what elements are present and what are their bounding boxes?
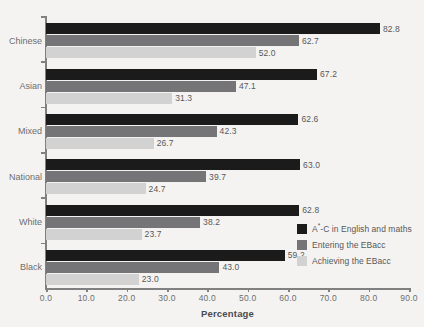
bar-row: 39.7 [46, 171, 409, 182]
bar-value-label: 39.7 [206, 172, 226, 182]
bar-row: 62.6 [46, 114, 409, 125]
bar[interactable] [46, 183, 146, 194]
x-axis-tick [369, 288, 371, 292]
bar-row: 42.3 [46, 126, 409, 137]
x-axis-tick-label: 40.0 [199, 293, 216, 303]
bar-group: 82.862.752.0 [46, 23, 409, 59]
bar-value-label: 23.0 [139, 274, 159, 284]
bar-chart: ChineseAsianMixedNationalWhiteBlack 82.8… [0, 0, 424, 327]
bar-row: 31.3 [46, 93, 409, 104]
x-axis-tick-label: 90.0 [400, 293, 417, 303]
bar[interactable] [46, 93, 172, 104]
bar[interactable] [46, 250, 285, 261]
bar[interactable] [46, 229, 142, 240]
bar-value-label: 31.3 [172, 93, 192, 103]
bar-group: 63.039.724.7 [46, 159, 409, 195]
bar[interactable] [46, 126, 217, 137]
category-label: Mixed [0, 126, 42, 136]
bar-value-label: 47.1 [236, 81, 256, 91]
bar[interactable] [46, 23, 380, 34]
x-axis-tick [248, 288, 250, 292]
x-axis-tick-label: 80.0 [360, 293, 377, 303]
category-label: Chinese [0, 36, 42, 46]
bar-value-label: 62.8 [299, 205, 319, 215]
bar-row: 67.2 [46, 69, 409, 80]
category-axis-labels: ChineseAsianMixedNationalWhiteBlack [0, 16, 42, 288]
bar-row: 23.0 [46, 274, 409, 285]
x-axis-tick [46, 288, 48, 292]
legend-item[interactable]: Achieving the EBacc [297, 253, 412, 269]
legend-label: Achieving the EBacc [312, 256, 391, 266]
x-axis-tick-label: 70.0 [320, 293, 337, 303]
bar[interactable] [46, 217, 200, 228]
bar-value-label: 23.7 [142, 229, 162, 239]
bar[interactable] [46, 114, 298, 125]
bar[interactable] [46, 205, 299, 216]
bar[interactable] [46, 171, 206, 182]
legend-swatch-icon [297, 224, 307, 234]
legend-item[interactable]: A*-C in English and maths [297, 221, 412, 237]
category-label: Asian [0, 81, 42, 91]
legend-swatch-icon [297, 240, 307, 250]
x-axis-tick-labels: 0.010.020.030.040.050.060.070.080.090.0 [46, 293, 409, 307]
bar-row: 24.7 [46, 183, 409, 194]
x-axis-tick-label: 10.0 [78, 293, 95, 303]
bar-value-label: 62.6 [298, 114, 318, 124]
bar[interactable] [46, 138, 154, 149]
bar[interactable] [46, 47, 256, 58]
bar-row: 52.0 [46, 47, 409, 58]
x-axis-tick-label: 20.0 [118, 293, 135, 303]
x-axis-tick [207, 288, 209, 292]
x-axis-tick-label: 60.0 [279, 293, 296, 303]
category-label: Black [0, 262, 42, 272]
bar[interactable] [46, 274, 139, 285]
bar[interactable] [46, 81, 236, 92]
chart-legend: A*-C in English and mathsEntering the EB… [297, 221, 412, 269]
bar-group: 67.247.131.3 [46, 69, 409, 105]
bar-value-label: 43.0 [219, 262, 239, 272]
bar[interactable] [46, 35, 299, 46]
x-axis-tick-label: 50.0 [239, 293, 256, 303]
bar-value-label: 62.7 [299, 36, 319, 46]
bar-group: 62.642.326.7 [46, 114, 409, 150]
legend-swatch-icon [297, 256, 307, 266]
x-axis-tick [167, 288, 169, 292]
bar-row: 63.0 [46, 159, 409, 170]
x-axis-tick-label: 30.0 [158, 293, 175, 303]
bar[interactable] [46, 69, 317, 80]
legend-label: A*-C in English and maths [312, 224, 412, 234]
x-axis-tick-label: 0.0 [40, 293, 52, 303]
x-axis-line [45, 288, 410, 290]
x-axis-tick [328, 288, 330, 292]
category-label: White [0, 217, 42, 227]
x-axis-tick [288, 288, 290, 292]
bar-value-label: 52.0 [256, 48, 276, 58]
bar-row: 26.7 [46, 138, 409, 149]
bar-value-label: 38.2 [200, 217, 220, 227]
bar-row: 82.8 [46, 23, 409, 34]
bar-value-label: 67.2 [317, 69, 337, 79]
bar-value-label: 42.3 [217, 126, 237, 136]
bar-value-label: 82.8 [380, 24, 400, 34]
bar[interactable] [46, 262, 219, 273]
x-axis-title: Percentage [46, 308, 409, 319]
bar-row: 62.7 [46, 35, 409, 46]
bar-value-label: 63.0 [300, 160, 320, 170]
category-label: National [0, 172, 42, 182]
legend-label: Entering the EBacc [312, 240, 386, 250]
x-axis-tick [86, 288, 88, 292]
bar-value-label: 26.7 [154, 138, 174, 148]
x-axis-tick [127, 288, 129, 292]
bar-row: 62.8 [46, 205, 409, 216]
bar-row: 47.1 [46, 81, 409, 92]
x-axis-tick [409, 288, 411, 292]
bar-value-label: 24.7 [146, 184, 166, 194]
bar[interactable] [46, 159, 300, 170]
legend-item[interactable]: Entering the EBacc [297, 237, 412, 253]
